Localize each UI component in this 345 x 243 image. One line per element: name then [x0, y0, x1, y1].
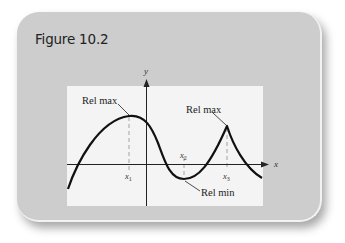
label-rel-max-right: Rel max [186, 104, 222, 115]
x-axis-label: x [273, 159, 278, 169]
y-axis-arrow-icon [144, 79, 150, 87]
label-rel-max-left: Rel max [82, 95, 118, 106]
label-rel-min: Rel min [201, 187, 235, 198]
x-axis-arrow-icon [261, 162, 269, 168]
y-axis-label: y [143, 66, 148, 76]
function-graph: y x Rel max Rel max Rel min x1 x2 x3 [0, 0, 345, 243]
